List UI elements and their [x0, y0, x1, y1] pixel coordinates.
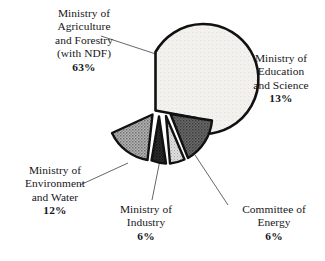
slice-value-industry: 6% — [104, 230, 188, 243]
slice-value-agriculture: 63% — [22, 61, 146, 74]
slice-label-environment: Ministry of Environment and Water 12% — [3, 164, 107, 218]
slice-label-environment-line3: and Water — [3, 191, 107, 204]
slice-label-agriculture-line1: Ministry of — [22, 7, 146, 20]
slice-label-energy-line1: Committee of — [225, 203, 323, 216]
slice-label-agriculture-line4: (with NDF) — [22, 47, 146, 60]
slice-label-environment-line2: Environment — [3, 177, 107, 190]
slice-label-energy: Committee of Energy 6% — [225, 203, 323, 243]
slice-label-agriculture: Ministry of Agriculture and Forestry (wi… — [22, 7, 146, 74]
slice-label-agriculture-line2: Agriculture — [22, 20, 146, 33]
pie-slice-environment[interactable] — [112, 115, 153, 161]
slice-label-industry-line2: Industry — [104, 216, 188, 229]
slice-value-education: 13% — [238, 92, 324, 105]
slice-label-education-line3: and Science — [238, 79, 324, 92]
slice-value-environment: 12% — [3, 204, 107, 217]
slice-label-industry-line1: Ministry of — [104, 203, 188, 216]
pie-chart-figure: Ministry of Agriculture and Forestry (wi… — [0, 0, 325, 261]
slice-label-education-line1: Ministry of — [238, 52, 324, 65]
slice-label-industry: Ministry of Industry 6% — [104, 203, 188, 243]
slice-label-education-line2: Education — [238, 65, 324, 78]
leader-line-industry — [152, 160, 160, 200]
slice-label-energy-line2: Energy — [225, 216, 323, 229]
leader-line-energy — [195, 155, 228, 205]
pie-slice-industry[interactable] — [152, 117, 167, 164]
slice-label-agriculture-line3: and Forestry — [22, 34, 146, 47]
slice-value-energy: 6% — [225, 230, 323, 243]
slice-label-environment-line1: Ministry of — [3, 164, 107, 177]
slice-label-education: Ministry of Education and Science 13% — [238, 52, 324, 106]
